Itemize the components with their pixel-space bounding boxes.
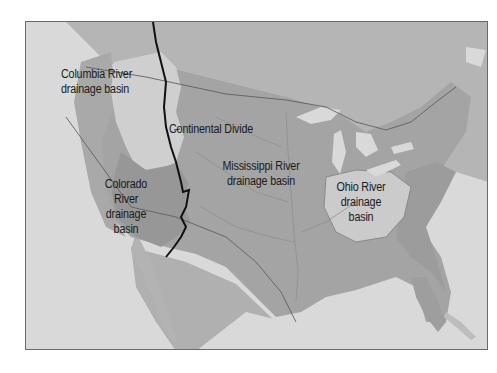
colorado-label-line1: Colorado (100, 177, 152, 192)
continental-divide-text: Continental Divide (169, 122, 253, 137)
ohio-label: Ohio River drainage basin (331, 180, 391, 225)
colorado-label: Colorado River drainage basin (100, 177, 152, 237)
drainage-basin-map: Columbia River drainage basin Continenta… (25, 21, 488, 350)
colorado-label-line2: River (100, 192, 152, 207)
columbia-label-line1: Columbia River (61, 67, 132, 82)
ohio-label-line3: basin (331, 210, 391, 225)
colorado-label-line4: basin (100, 222, 152, 237)
mississippi-label-line1: Mississippi River (197, 159, 326, 174)
mississippi-label: Mississippi River drainage basin (197, 159, 326, 189)
columbia-label: Columbia River drainage basin (61, 67, 132, 97)
continental-divide-label: Continental Divide (169, 122, 253, 137)
ohio-label-line1: Ohio River (331, 180, 391, 195)
colorado-label-line3: drainage (100, 207, 152, 222)
columbia-label-line2: drainage basin (61, 82, 132, 97)
ohio-label-line2: drainage (331, 195, 391, 210)
mississippi-label-line2: drainage basin (197, 174, 326, 189)
